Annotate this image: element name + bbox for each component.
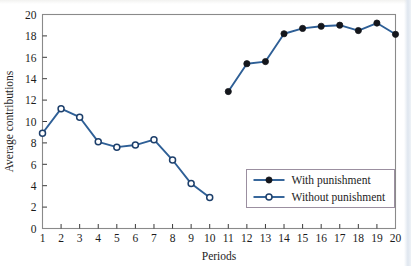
y-tick-label: 20 — [25, 9, 37, 21]
data-point-open — [95, 139, 101, 145]
legend-label-1: With punishment — [292, 174, 372, 187]
x-tick-label: 6 — [133, 232, 139, 244]
x-tick-label: 15 — [297, 232, 309, 244]
data-point-filled — [392, 31, 398, 37]
data-point-open — [170, 157, 176, 163]
scan-artifact-top — [0, 0, 411, 4]
legend-marker-open — [266, 194, 272, 200]
x-axis-title: Periods — [202, 250, 237, 262]
x-tick-label: 9 — [188, 232, 194, 244]
data-point-open — [114, 144, 120, 150]
y-tick-label: 0 — [31, 223, 37, 235]
x-tick-label: 7 — [151, 232, 157, 244]
y-tick-label: 2 — [31, 201, 37, 213]
x-tick-label: 16 — [315, 232, 327, 244]
x-tick-label: 20 — [390, 232, 402, 244]
scan-artifact-right — [404, 0, 411, 266]
x-tick-label: 14 — [278, 232, 290, 244]
data-point-filled — [225, 88, 231, 94]
x-tick-label: 13 — [260, 232, 272, 244]
chart-canvas: 0246810121416182012345678910111213141516… — [0, 0, 411, 266]
x-tick-label: 18 — [353, 232, 365, 244]
data-point-filled — [281, 31, 287, 37]
data-point-open — [151, 137, 157, 143]
x-tick-label: 2 — [58, 232, 64, 244]
legend-label-2: Without punishment — [292, 191, 387, 204]
chart-figure: 0246810121416182012345678910111213141516… — [0, 0, 411, 266]
data-point-open — [207, 194, 213, 200]
x-tick-label: 5 — [114, 232, 120, 244]
x-tick-label: 8 — [170, 232, 176, 244]
y-tick-label: 6 — [31, 159, 37, 171]
y-tick-label: 8 — [31, 137, 37, 149]
data-point-open — [58, 106, 64, 112]
data-point-filled — [318, 23, 324, 29]
data-point-filled — [262, 58, 268, 64]
y-tick-label: 16 — [25, 52, 37, 64]
y-tick-label: 12 — [25, 94, 37, 106]
legend-marker-filled — [266, 177, 272, 183]
data-point-open — [188, 181, 194, 187]
x-tick-label: 11 — [223, 232, 234, 244]
data-point-filled — [244, 61, 250, 67]
data-point-open — [77, 114, 83, 120]
data-point-open — [40, 130, 46, 136]
data-point-filled — [355, 27, 361, 33]
series-line-2 — [228, 23, 395, 91]
y-tick-label: 18 — [25, 30, 37, 42]
x-tick-label: 1 — [40, 232, 46, 244]
data-point-open — [132, 142, 138, 148]
data-point-filled — [337, 22, 343, 28]
x-tick-label: 10 — [204, 232, 216, 244]
data-point-filled — [300, 25, 306, 31]
y-tick-label: 10 — [25, 116, 37, 128]
x-tick-label: 4 — [95, 232, 101, 244]
y-tick-label: 4 — [31, 180, 37, 192]
data-point-filled — [374, 20, 380, 26]
x-tick-label: 17 — [334, 232, 346, 244]
series-line-1 — [43, 109, 210, 198]
x-tick-label: 3 — [77, 232, 83, 244]
y-axis-title: Average contributions — [3, 70, 16, 172]
x-tick-label: 19 — [371, 232, 383, 244]
x-tick-label: 12 — [241, 232, 253, 244]
y-tick-label: 14 — [25, 73, 37, 85]
